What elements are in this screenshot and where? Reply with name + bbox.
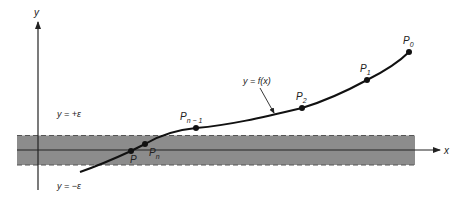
upper-bound-label: y = +ε [56,109,82,119]
y-axis-label: y [33,7,40,18]
x-axis-label: x [443,145,450,156]
point-pn-minus-1 [193,125,199,131]
label-p: P [130,154,137,165]
label-p1: P1 [360,63,371,76]
point-p1 [364,77,370,83]
curve-label: y = f(x) [242,76,271,86]
convergence-diagram: y x y = +ε y = −ε y = f(x) P0 P1 P2 Pn −… [0,0,458,201]
label-p2: P2 [296,91,307,104]
label-pn-minus-1: Pn − 1 [180,111,203,124]
lower-bound-label: y = −ε [56,181,82,191]
point-p2 [299,105,305,111]
curve-label-arrow [260,88,274,113]
point-p0 [406,49,412,55]
point-pn [142,141,148,147]
label-p0: P0 [403,35,414,48]
